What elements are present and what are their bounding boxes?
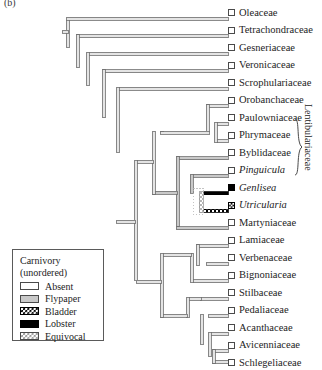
node-v-4 bbox=[116, 87, 119, 152]
tip-label: Schlegeliaceae bbox=[239, 357, 301, 368]
tip-state-box bbox=[228, 272, 235, 279]
tip-state-box bbox=[228, 167, 235, 174]
legend-item-label: Absent bbox=[45, 281, 73, 292]
node-v-genlisea-utricularia-equivocal bbox=[199, 192, 203, 213]
tip-state-box bbox=[228, 62, 235, 69]
branch-pedaliaceae bbox=[208, 315, 228, 318]
branch-stem-lenti bbox=[152, 191, 177, 194]
branch-root-stub bbox=[62, 30, 68, 33]
legend-rows: AbsentFlypaperBladderLobsterEquivocal bbox=[20, 280, 103, 342]
tip-label: Orobanchaceae bbox=[239, 94, 304, 105]
legend-item: Absent bbox=[20, 280, 103, 292]
branch-gesneriaceae bbox=[86, 52, 228, 55]
branch-scrophulariaceae bbox=[116, 87, 228, 90]
branch-backbone-join bbox=[116, 220, 135, 223]
tip-label: Phrymaceae bbox=[239, 129, 290, 140]
node-v-bign bbox=[190, 253, 193, 283]
tip-state-box bbox=[228, 237, 235, 244]
clade-bracket-label: Lentibulariaceae bbox=[303, 104, 314, 171]
tip-state-box bbox=[228, 149, 235, 156]
node-v-1 bbox=[76, 35, 79, 68]
legend-box: Carnivory (unordered) AbsentFlypaperBlad… bbox=[12, 249, 104, 341]
legend-item-label: Flypaper bbox=[45, 293, 81, 304]
legend-swatch-absent bbox=[20, 282, 39, 290]
branch-lower-join bbox=[136, 280, 161, 283]
tip-label: Gesneriaceae bbox=[239, 42, 295, 53]
branch-tetrachondraceae bbox=[76, 35, 228, 38]
tip-state-box bbox=[228, 79, 235, 86]
tip-state-box bbox=[228, 202, 235, 209]
branch-lamiaceae bbox=[196, 245, 228, 248]
tip-state-box bbox=[228, 132, 235, 139]
legend-swatch-bladder bbox=[20, 307, 39, 315]
tip-label: Pedaliaceae bbox=[239, 304, 289, 315]
tip-label: Stilbaceae bbox=[239, 287, 282, 298]
tip-label: Scrophulariaceae bbox=[239, 77, 311, 88]
tip-label: Lamiaceae bbox=[239, 234, 284, 245]
branch-utricularia bbox=[203, 209, 228, 212]
tip-label: Byblidaceae bbox=[239, 147, 291, 158]
tip-state-box bbox=[228, 219, 235, 226]
tip-label: Tetrachondraceae bbox=[239, 24, 313, 35]
node-v-2 bbox=[86, 52, 89, 85]
node-v-orob bbox=[206, 105, 209, 132]
branch-to-orob-clade bbox=[160, 131, 209, 134]
node-v-lam bbox=[196, 245, 199, 266]
node-v-avic bbox=[212, 350, 215, 364]
tip-state-box bbox=[228, 324, 235, 331]
tip-label: Acanthaceae bbox=[239, 322, 293, 333]
legend-title-line2: (unordered) bbox=[20, 267, 103, 279]
branch-oleaceae bbox=[66, 17, 228, 20]
tip-state-box bbox=[228, 307, 235, 314]
branch-pinguicula bbox=[190, 174, 228, 177]
tip-label: Veronicaceae bbox=[239, 59, 295, 70]
branch-veronicaceae bbox=[102, 70, 228, 73]
tip-state-box bbox=[228, 359, 235, 366]
tip-label: Avicenniaceae bbox=[239, 339, 300, 350]
branch-to-lam-clade bbox=[160, 253, 191, 256]
legend-swatch-flypaper bbox=[20, 295, 39, 303]
figure-panel: (b) bbox=[0, 0, 322, 370]
node-v-acan bbox=[208, 332, 211, 356]
node-v-opp bbox=[214, 122, 217, 143]
branch-verbenaceae bbox=[206, 262, 228, 265]
branch-martyniaceae bbox=[176, 227, 228, 230]
legend-item: Flypaper bbox=[20, 293, 103, 305]
legend-item: Lobster bbox=[20, 318, 103, 330]
tip-label: Pinguicula bbox=[239, 164, 285, 175]
legend-item: Equivocal bbox=[20, 330, 103, 342]
tip-label: Martyniaceae bbox=[239, 217, 296, 228]
tip-label: Oleaceae bbox=[239, 7, 277, 18]
tip-state-box bbox=[228, 44, 235, 51]
tip-state-box bbox=[228, 9, 235, 16]
tip-state-box bbox=[228, 254, 235, 261]
tip-label: Verbenaceae bbox=[239, 252, 292, 263]
node-v-ped bbox=[200, 315, 203, 345]
tip-state-box bbox=[228, 289, 235, 296]
legend-item-label: Bladder bbox=[45, 306, 77, 317]
legend-item: Bladder bbox=[20, 305, 103, 317]
node-v-3 bbox=[102, 70, 105, 118]
tip-label: Paulowniaceae bbox=[239, 112, 302, 123]
legend-title: Carnivory (unordered) bbox=[20, 255, 103, 278]
tip-state-box bbox=[228, 342, 235, 349]
branch-stilbaceae bbox=[200, 297, 228, 300]
legend-item-label: Lobster bbox=[45, 318, 76, 329]
node-v-lower bbox=[160, 253, 163, 317]
tip-label: Utricularia bbox=[239, 199, 287, 210]
branch-bignoniaceae bbox=[190, 280, 228, 283]
tip-label: Genlisea bbox=[239, 182, 276, 193]
tip-state-box bbox=[228, 97, 235, 104]
branch-byblidaceae bbox=[176, 157, 228, 160]
tip-state-box bbox=[228, 184, 235, 191]
legend-item-label: Equivocal bbox=[45, 331, 86, 342]
branch-genlisea bbox=[203, 192, 228, 195]
tip-label: Bignoniaceae bbox=[239, 269, 296, 280]
tip-state-box bbox=[228, 27, 235, 34]
legend-swatch-lobster bbox=[20, 320, 39, 328]
branch-to-stilb-clade bbox=[160, 314, 187, 317]
legend-swatch-equivocal bbox=[20, 332, 39, 340]
tip-state-box bbox=[228, 114, 235, 121]
legend-title-line1: Carnivory bbox=[20, 255, 103, 267]
